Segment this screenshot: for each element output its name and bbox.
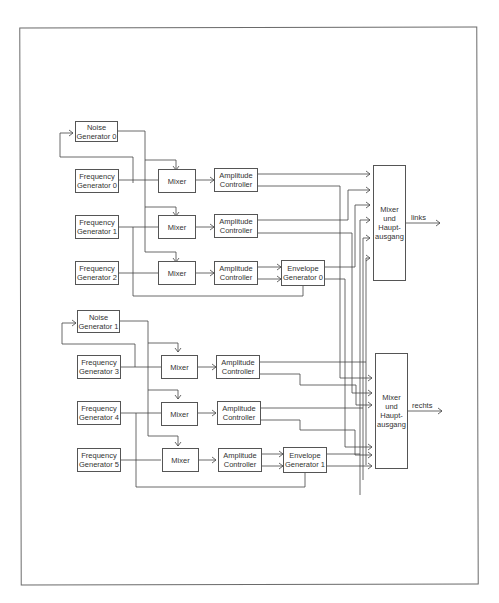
block-label: Mixer bbox=[168, 177, 186, 186]
block-label: Amplitude bbox=[219, 264, 252, 273]
block-label: Controller bbox=[221, 367, 254, 376]
amplitude-controller-3: AmplitudeController bbox=[216, 355, 260, 379]
frequency-generator-2: FrequencyGenerator 2 bbox=[75, 261, 119, 285]
block-label: Mixer bbox=[170, 410, 188, 419]
block-label: Mixer bbox=[168, 223, 186, 232]
amplitude-controller-0: AmplitudeController bbox=[214, 168, 258, 192]
block-label: Mixer bbox=[170, 363, 188, 372]
block-label: Generator 1 bbox=[77, 227, 117, 236]
frequency-generator-5: FrequencyGenerator 5 bbox=[77, 448, 121, 472]
block-label: Frequency bbox=[77, 218, 117, 227]
amplitude-controller-2: AmplitudeController bbox=[214, 261, 258, 285]
mixer-5: Mixer bbox=[162, 448, 199, 472]
block-label: Generator 0 bbox=[283, 273, 323, 282]
main-mixer-right: MixerundHaupt-ausgang bbox=[375, 353, 408, 469]
block-label: Envelope bbox=[285, 451, 325, 460]
noise-generator-0: NoiseGenerator 0 bbox=[75, 121, 118, 142]
block-label: Frequency bbox=[77, 172, 117, 181]
block-label: Controller bbox=[222, 413, 255, 422]
block-label: Mixer bbox=[375, 205, 404, 214]
block-label: Frequency bbox=[77, 264, 117, 273]
block-label: Amplitude bbox=[223, 451, 256, 460]
envelope-generator-0: EnvelopeGenerator 0 bbox=[281, 260, 325, 286]
block-label: ausgang bbox=[377, 420, 406, 429]
block-label: Frequency bbox=[79, 358, 119, 367]
connection-lines bbox=[0, 0, 499, 603]
noise-generator-1: NoiseGenerator 1 bbox=[77, 310, 120, 333]
envelope-generator-1: EnvelopeGenerator 1 bbox=[283, 447, 327, 473]
frequency-generator-4: FrequencyGenerator 4 bbox=[77, 401, 121, 425]
mixer-1: Mixer bbox=[158, 215, 196, 239]
block-label: Amplitude bbox=[219, 171, 252, 180]
block-label: Amplitude bbox=[219, 217, 252, 226]
block-label: Haupt- bbox=[377, 411, 406, 420]
output-label-left: links bbox=[411, 213, 426, 222]
block-label: ausgang bbox=[375, 232, 404, 241]
block-label: Generator 3 bbox=[79, 367, 119, 376]
block-label: Noise bbox=[76, 123, 116, 132]
block-label: Noise bbox=[78, 313, 118, 322]
block-label: Controller bbox=[219, 180, 252, 189]
amplitude-controller-5: AmplitudeController bbox=[218, 448, 262, 472]
block-label: Amplitude bbox=[221, 358, 254, 367]
block-label: Controller bbox=[219, 273, 252, 282]
amplitude-controller-4: AmplitudeController bbox=[217, 401, 261, 425]
block-label: Generator 4 bbox=[79, 413, 119, 422]
block-label: Frequency bbox=[79, 404, 119, 413]
mixer-3: Mixer bbox=[161, 355, 198, 379]
block-label: Generator 1 bbox=[285, 460, 325, 469]
block-label: Generator 0 bbox=[77, 181, 117, 190]
block-label: Generator 1 bbox=[78, 322, 118, 331]
output-label-right: rechts bbox=[412, 401, 432, 410]
block-label: Generator 5 bbox=[79, 460, 119, 469]
block-label: Mixer bbox=[168, 269, 186, 278]
amplitude-controller-1: AmplitudeController bbox=[214, 214, 258, 238]
block-label: und bbox=[377, 402, 406, 411]
frequency-generator-0: FrequencyGenerator 0 bbox=[75, 169, 119, 193]
block-label: Mixer bbox=[171, 456, 189, 465]
main-mixer-left: MixerundHaupt-ausgang bbox=[373, 165, 406, 281]
block-label: Envelope bbox=[283, 264, 323, 273]
mixer-4: Mixer bbox=[161, 402, 198, 426]
block-label: Haupt- bbox=[375, 223, 404, 232]
mixer-0: Mixer bbox=[158, 169, 196, 193]
mixer-2: Mixer bbox=[158, 261, 196, 285]
block-label: Generator 0 bbox=[76, 132, 116, 141]
frequency-generator-1: FrequencyGenerator 1 bbox=[75, 215, 119, 239]
block-label: Generator 2 bbox=[77, 273, 117, 282]
block-label: und bbox=[375, 214, 404, 223]
frequency-generator-3: FrequencyGenerator 3 bbox=[77, 355, 121, 379]
block-label: Mixer bbox=[377, 393, 406, 402]
block-label: Amplitude bbox=[222, 404, 255, 413]
block-label: Frequency bbox=[79, 451, 119, 460]
block-label: Controller bbox=[219, 226, 252, 235]
block-label: Controller bbox=[223, 460, 256, 469]
